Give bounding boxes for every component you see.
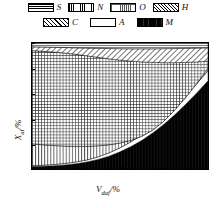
y-tick-mark xyxy=(32,43,35,44)
chart-figure: S N O H C A xyxy=(0,0,216,208)
legend-row-1: S N O H xyxy=(0,0,216,15)
legend-swatch-C-icon xyxy=(43,18,69,27)
legend-label-N: N xyxy=(97,3,103,12)
x-tick-mark xyxy=(143,166,144,169)
legend-swatch-O-icon xyxy=(110,3,136,12)
legend-item-H: H xyxy=(153,3,189,12)
x-tick-mark xyxy=(77,166,78,169)
legend-label-M: M xyxy=(166,18,174,27)
x-axis-label-sub: daf xyxy=(102,189,110,196)
legend-item-O: O xyxy=(110,3,146,12)
x-axis-label-unit: /% xyxy=(110,184,120,194)
legend-swatch-N-icon xyxy=(68,3,94,12)
y-tick-mark xyxy=(32,94,35,95)
x-tick-mark xyxy=(121,166,122,169)
legend-swatch-A-icon xyxy=(90,18,116,27)
y-tick-mark xyxy=(32,145,35,146)
legend-label-O: O xyxy=(139,3,146,12)
legend-swatch-S-icon xyxy=(28,3,54,12)
legend-item-S: S xyxy=(28,3,62,12)
legend-swatch-M-icon xyxy=(137,18,163,27)
chart-legend: S N O H C A xyxy=(0,0,216,30)
y-tick-mark xyxy=(32,69,35,70)
y-axis-label: Xai/% xyxy=(13,107,25,153)
legend-item-A: A xyxy=(90,18,125,27)
x-tick-mark xyxy=(188,166,189,169)
legend-label-A: A xyxy=(119,18,125,27)
legend-label-S: S xyxy=(57,3,62,12)
legend-label-H: H xyxy=(182,3,189,12)
stacked-area-fills xyxy=(32,43,208,169)
legend-item-N: N xyxy=(68,3,103,12)
x-tick-mark xyxy=(54,166,55,169)
y-axis-label-sub: ai xyxy=(18,130,25,135)
legend-row-2: C A M xyxy=(0,15,216,30)
legend-item-M: M xyxy=(137,18,174,27)
plot-area-wrapper: Xai/% xyxy=(0,38,216,208)
plot-axes: 020406080100 10203040506070 xyxy=(31,42,209,170)
x-axis-label: Vdaf/% xyxy=(0,184,216,196)
legend-item-C: C xyxy=(43,18,78,27)
y-tick-mark xyxy=(32,120,35,121)
x-tick-mark xyxy=(166,166,167,169)
legend-swatch-H-icon xyxy=(153,3,179,12)
legend-label-C: C xyxy=(72,18,78,27)
y-axis-label-unit: /% xyxy=(13,120,23,130)
y-axis-label-base: X xyxy=(13,135,23,141)
x-tick-mark xyxy=(99,166,100,169)
